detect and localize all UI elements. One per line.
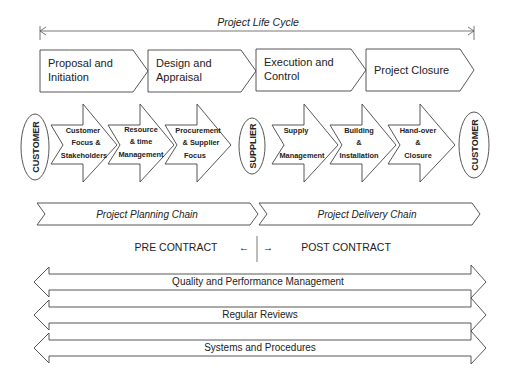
step-label-line: & time — [130, 137, 153, 146]
phase-label-line: Control — [264, 70, 299, 82]
band-systems-procedures: Systems and Procedures — [34, 331, 486, 364]
delivery-steps: Supply Management Building & Installatio… — [272, 104, 455, 182]
post-contract-label: POST CONTRACT — [301, 241, 391, 253]
step-supply-management: Supply Management — [272, 104, 338, 182]
step-procurement-supplier: Procurement & Supplier Focus — [165, 104, 231, 182]
customer-right-label: CUSTOMER — [470, 119, 480, 171]
phase-label-line: Appraisal — [156, 71, 202, 83]
band-label: Systems and Procedures — [204, 342, 316, 353]
phase-design-appraisal: Design and Appraisal — [148, 50, 256, 92]
step-label-line: Stakeholders — [61, 151, 107, 160]
band-label: Quality and Performance Management — [172, 276, 344, 287]
customer-left-label: CUSTOMER — [31, 121, 41, 173]
step-label-line: Customer — [66, 126, 101, 135]
step-label-line: Closure — [404, 151, 432, 160]
step-label-line: & Supplier — [183, 138, 220, 147]
planning-chain-label: Project Planning Chain — [96, 209, 198, 220]
step-label-line: Hand-over — [400, 126, 437, 135]
phase-label-line: Project Closure — [374, 64, 449, 76]
diagram-title: Project Life Cycle — [217, 16, 299, 28]
band-regular-reviews: Regular Reviews — [34, 298, 486, 331]
step-building-installation: Building & Installation — [330, 104, 396, 182]
step-label-line: & — [356, 138, 362, 147]
delivery-chain: Project Delivery Chain — [259, 203, 480, 225]
supplier-label: SUPPLIER — [248, 123, 258, 169]
step-handover-closure: Hand-over & Closure — [388, 104, 455, 182]
supplier-node: SUPPLIER — [239, 118, 265, 174]
phase-label-line: Initiation — [48, 71, 89, 83]
customer-left-node: CUSTOMER — [21, 114, 49, 180]
step-resource-time: Resource & time Management — [108, 104, 174, 182]
step-label-line: Building — [344, 126, 374, 135]
phase-proposal-initiation: Proposal and Initiation — [40, 50, 148, 92]
right-arrow-icon: → — [263, 241, 274, 253]
phase-execution-control: Execution and Control — [256, 49, 366, 91]
step-label-line: Installation — [339, 151, 378, 160]
step-customer-focus: Customer Focus & Stakeholders — [51, 104, 117, 182]
left-arrow-icon: ← — [239, 241, 250, 253]
step-label-line: & — [415, 138, 421, 147]
step-label-line: Procurement — [175, 126, 221, 135]
planning-chain: Project Planning Chain — [37, 203, 258, 225]
step-label-line: Focus — [184, 151, 206, 160]
phase-row: Proposal and Initiation Design and Appra… — [40, 49, 474, 92]
phase-label-line: Design and — [156, 57, 212, 69]
step-label-line: Focus & — [71, 138, 101, 147]
customer-right-node: CUSTOMER — [459, 112, 489, 178]
band-label: Regular Reviews — [222, 309, 298, 320]
delivery-chain-label: Project Delivery Chain — [318, 209, 417, 220]
pre-contract-label: PRE CONTRACT — [135, 241, 218, 253]
band-quality-performance: Quality and Performance Management — [34, 265, 486, 298]
step-label-line: Supply — [284, 126, 310, 135]
phase-label-line: Execution and — [264, 56, 334, 68]
planning-steps: Customer Focus & Stakeholders Resource &… — [51, 104, 231, 182]
step-label-line: Resource — [124, 125, 158, 134]
step-label-line: Management — [279, 151, 325, 160]
step-label-line: Management — [118, 150, 164, 159]
project-life-cycle-diagram: Project Life Cycle Proposal and Initiati… — [0, 0, 509, 380]
contract-divider: PRE CONTRACT ← → POST CONTRACT — [135, 236, 392, 262]
phase-project-closure: Project Closure — [366, 49, 474, 91]
phase-label-line: Proposal and — [48, 57, 113, 69]
life-cycle-span-arrow — [40, 26, 474, 40]
